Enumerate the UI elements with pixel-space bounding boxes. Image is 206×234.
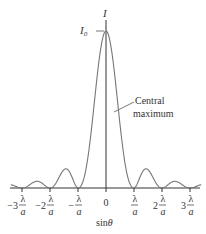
tick-label-zero: 0 — [104, 197, 109, 208]
tick-label-denominator: a — [161, 206, 166, 217]
tick-label-denominator: a — [133, 206, 138, 217]
tick-label-denominator: a — [21, 206, 26, 217]
tick-group: λa−3λa−2λa−0λaλa2λa3 — [7, 188, 194, 217]
tick-label-coefficient: 2 — [153, 200, 158, 211]
tick-label-numerator: λ — [77, 193, 82, 204]
annotation-leader-line — [114, 102, 134, 112]
tick-label-denominator: a — [49, 206, 54, 217]
tick-label-coefficient: −3 — [7, 200, 18, 211]
theta-symbol: θ — [108, 217, 113, 228]
annotation-line1: Central — [135, 95, 165, 106]
tick-label-numerator: λ — [189, 193, 194, 204]
tick-label-denominator: a — [189, 206, 194, 217]
tick-label-numerator: λ — [133, 193, 138, 204]
tick-label-numerator: λ — [49, 193, 54, 204]
peak-label: I0 — [79, 24, 88, 38]
sin-text: sin — [96, 217, 108, 228]
peak-label-subscript: 0 — [84, 30, 88, 38]
diffraction-diagram: λa−3λa−2λa−0λaλa2λa3 I I0 Central maximu… — [0, 0, 206, 234]
tick-label-coefficient: 3 — [181, 200, 186, 211]
tick-label-numerator: λ — [161, 193, 166, 204]
annotation-line2: maximum — [133, 108, 174, 119]
tick-label-denominator: a — [77, 206, 82, 217]
tick-label-coefficient: −2 — [35, 200, 46, 211]
tick-label-numerator: λ — [21, 193, 26, 204]
vertical-axis-label: I — [102, 7, 108, 19]
tick-label-coefficient: − — [68, 200, 74, 211]
horizontal-axis-label: sinθ — [96, 217, 113, 228]
